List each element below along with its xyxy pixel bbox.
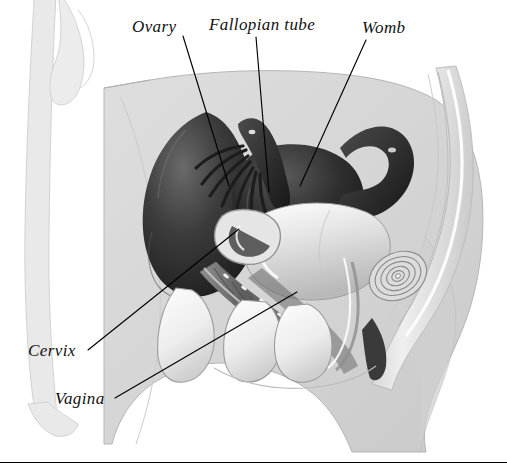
label-ovary: Ovary: [132, 18, 176, 35]
bottom-rule: [0, 462, 507, 463]
label-womb: Womb: [362, 19, 405, 36]
label-cervix: Cervix: [28, 342, 76, 359]
cervix: [215, 210, 281, 265]
label-vagina: Vagina: [55, 390, 105, 407]
label-fallopian-tube: Fallopian tube: [209, 16, 315, 33]
